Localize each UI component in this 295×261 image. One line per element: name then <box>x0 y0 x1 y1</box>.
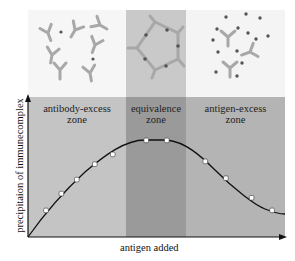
top-panel-antibody-excess <box>28 10 126 97</box>
data-point-marker <box>44 208 49 213</box>
data-point-marker <box>249 196 254 201</box>
data-point-marker <box>93 162 98 167</box>
data-point-marker <box>165 138 170 143</box>
y-axis-label: precipitaion of immunecomplex <box>14 91 25 241</box>
zone-label-antibody-excess: antibody-excess zone <box>28 103 126 125</box>
data-point-marker <box>75 177 80 182</box>
precipitation-diagram: antibody-excess zone equivalence zone an… <box>0 0 295 261</box>
data-point-marker <box>270 208 275 213</box>
zone-label-equivalence: equivalence zone <box>126 103 186 125</box>
data-point-marker <box>203 159 208 164</box>
data-point-marker <box>224 176 229 181</box>
data-point-marker <box>111 152 116 157</box>
zone-label-antigen-excess: antigen-excess zone <box>186 103 285 125</box>
data-point-marker <box>59 191 64 196</box>
diagram-canvas <box>0 0 295 261</box>
x-axis-label: antigen added <box>120 242 179 253</box>
top-panel-antigen-excess <box>186 10 285 97</box>
data-point-marker <box>144 138 149 143</box>
